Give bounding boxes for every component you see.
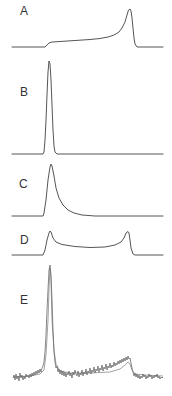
trace-b [12,61,163,154]
trace-c [12,164,163,216]
panel-label-b: B [20,86,28,98]
panel-label-c: C [19,178,28,190]
trace-e-experimental [13,265,163,381]
panel-label-e: E [20,294,28,306]
spectra-figure: A B C D E [0,0,172,396]
panel-label-a: A [20,5,28,17]
trace-e-simulation [13,268,163,377]
trace-d [12,231,163,255]
panel-label-d: D [20,234,29,246]
trace-a [12,9,163,47]
spectra-plot [0,0,172,396]
